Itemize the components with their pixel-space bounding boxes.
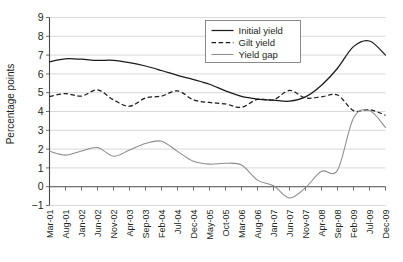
x-axis-tick-label: Nov-07: [301, 210, 311, 239]
x-axis-tick-label: Feb-09: [349, 210, 359, 239]
y-axis-tick-label: 5: [38, 86, 44, 98]
x-axis-tick-label: Sep-03: [141, 210, 151, 239]
x-axis-tick-label: May-05: [205, 210, 215, 240]
x-axis-tick-label: Aug-06: [253, 210, 263, 239]
x-axis-tick-label: Aug-01: [61, 210, 71, 239]
legend-label: Gilt yield: [239, 37, 275, 48]
x-axis-tick-label: Jun-02: [93, 210, 103, 238]
y-axis-tick-labels: −10123456789: [32, 11, 44, 211]
y-axis-title: Percentage points: [5, 64, 16, 145]
x-axis-tick-label: Apr-03: [125, 210, 135, 237]
x-axis-tick-label: Feb-04: [157, 210, 167, 239]
legend-label: Initial yield: [239, 25, 283, 36]
line-chart: −10123456789 Mar-01Aug-01Jan-02Jun-02Nov…: [0, 0, 403, 262]
x-axis-tick-label: Jan-02: [77, 210, 87, 238]
x-axis-tick-label: Jan-07: [269, 210, 279, 238]
legend-label: Yield gap: [239, 49, 278, 60]
x-axis-tick-label: Apr-08: [317, 210, 327, 237]
chart-legend: Initial yieldGilt yieldYield gap: [206, 21, 301, 63]
y-axis-tick-label: −1: [32, 199, 44, 211]
chart-plot-area: −10123456789 Mar-01Aug-01Jan-02Jun-02Nov…: [0, 0, 403, 262]
x-axis-tick-label: Jun-07: [285, 210, 295, 238]
x-axis-tick-label: Oct-05: [221, 210, 231, 237]
x-axis-tick-label: Mar-06: [237, 210, 247, 239]
x-axis-tick-label: Nov-02: [109, 210, 119, 239]
y-axis-tick-label: 0: [38, 180, 44, 192]
y-axis-tick-label: 1: [38, 162, 44, 174]
y-axis-tick-label: 6: [38, 68, 44, 80]
y-axis-tick-label: 2: [38, 143, 44, 155]
x-axis-tick-label: Jul-09: [365, 210, 375, 235]
y-axis-tick-label: 9: [38, 11, 44, 23]
x-axis-tick-label: Sep-08: [333, 210, 343, 239]
y-axis-tick-label: 7: [38, 49, 44, 61]
y-axis-tick-label: 3: [38, 124, 44, 136]
x-axis-tick-label: Dec-04: [189, 210, 199, 239]
y-axis-tick-label: 8: [38, 30, 44, 42]
x-axis-tick-label: Jul-04: [173, 210, 183, 235]
chart-container: −10123456789 Mar-01Aug-01Jan-02Jun-02Nov…: [0, 0, 403, 262]
x-axis-tick-labels: Mar-01Aug-01Jan-02Jun-02Nov-02Apr-03Sep-…: [45, 210, 391, 240]
series-line-yield-gap: [50, 110, 386, 198]
x-axis-tick-label: Dec-09: [381, 210, 391, 239]
x-axis-tick-label: Mar-01: [45, 210, 55, 239]
data-series-layer: [50, 41, 386, 198]
y-axis-tick-label: 4: [38, 105, 44, 117]
